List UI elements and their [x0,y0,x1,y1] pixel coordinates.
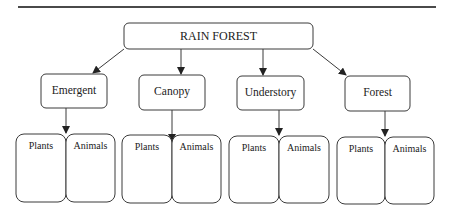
leaf-label-plants: Plants [242,142,267,153]
layer-label-emergent: Emergent [52,84,97,97]
layer-label-understory: Understory [245,86,297,99]
leaf-label-animals: Animals [393,143,427,154]
layer-node-forest: Forest [345,76,410,111]
rain-forest-diagram: RAIN FOREST Emergent Canopy Understory F… [0,0,450,205]
arrow-root-to-emergent [93,49,124,73]
root-label: RAIN FOREST [180,29,258,43]
leaf-label-plants: Plants [349,143,374,154]
layer-node-emergent: Emergent [41,74,107,108]
arrow-root-to-forest [313,49,346,75]
leaf-label-animals: Animals [180,141,214,152]
root-node: RAIN FOREST [124,23,313,49]
layer-label-canopy: Canopy [154,85,190,98]
layer-node-canopy: Canopy [139,75,205,110]
leaf-pair-canopy: Plants Animals [122,135,221,203]
leaf-pair-forest: Plants Animals [337,137,434,204]
leaf-label-animals: Animals [74,140,108,151]
layer-node-understory: Understory [237,76,304,110]
leaf-label-animals: Animals [287,142,321,153]
leaf-label-plants: Plants [29,140,54,151]
leaf-label-plants: Plants [135,141,160,152]
leaf-pair-understory: Plants Animals [229,136,329,203]
leaf-pair-emergent: Plants Animals [16,134,115,202]
layer-label-forest: Forest [363,86,393,98]
